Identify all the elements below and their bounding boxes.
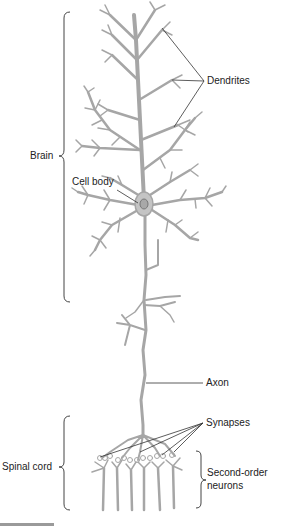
label-second-order-line2: neurons [207, 480, 243, 492]
label-dendrites: Dendrites [207, 75, 250, 87]
label-axon: Axon [206, 377, 229, 389]
label-second-order-line1: Second-order [207, 467, 268, 479]
second-order-bracket [196, 451, 206, 508]
label-spinal-cord: Spinal cord [2, 461, 52, 473]
label-cell-body: Cell body [72, 176, 114, 188]
nucleus [140, 199, 148, 209]
neuron-diagram [0, 0, 297, 528]
footer-bar [0, 523, 54, 526]
spinal-cord-bracket [59, 416, 70, 510]
label-brain: Brain [30, 150, 53, 162]
brain-bracket [59, 12, 70, 302]
label-synapses: Synapses [206, 417, 250, 429]
neuron [72, 2, 226, 510]
